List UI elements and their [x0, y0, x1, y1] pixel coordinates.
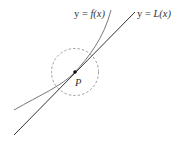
point-label: P — [74, 77, 82, 88]
tangent-diagram: y = f(x) y = L(x) P — [0, 0, 174, 142]
curve-label: y = f(x) — [74, 8, 105, 20]
line-label: y = L(x) — [137, 8, 171, 20]
point-p — [73, 70, 77, 74]
curve-f — [14, 10, 111, 110]
